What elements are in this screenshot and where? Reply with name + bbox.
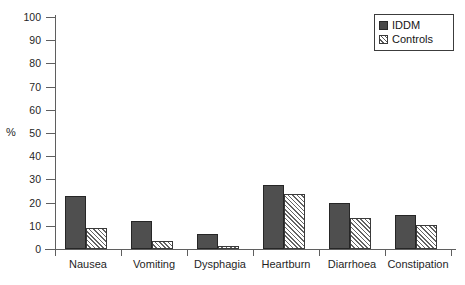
y-axis-tick — [46, 203, 55, 204]
bar-nausea-controls — [86, 228, 107, 249]
legend-item-iddm: IDDM — [379, 18, 448, 32]
bar-heartburn-controls — [284, 194, 305, 249]
bar-diarrhoea-iddm — [329, 203, 350, 249]
x-axis-tick — [385, 249, 386, 256]
y-axis-tick — [46, 133, 55, 134]
y-axis-tick-label: 100 — [11, 12, 41, 23]
x-axis-tick — [319, 249, 320, 256]
y-axis-tick — [46, 87, 55, 88]
y-axis-tick-label: 80 — [11, 58, 41, 69]
bar-dysphagia-controls — [218, 246, 239, 249]
y-axis-tick — [46, 17, 55, 18]
y-axis-tick — [46, 63, 55, 64]
x-axis-line — [45, 249, 456, 250]
y-axis-tick-label: 10 — [11, 221, 41, 232]
x-axis-tick — [451, 249, 452, 256]
bar-heartburn-iddm — [263, 185, 284, 249]
x-axis-tick — [55, 249, 56, 256]
y-axis-tick-label: 30 — [11, 174, 41, 185]
bar-vomiting-controls — [152, 241, 173, 249]
x-axis-tick — [253, 249, 254, 256]
y-axis-tick — [46, 110, 55, 111]
bar-nausea-iddm — [65, 196, 86, 249]
x-axis-tick — [187, 249, 188, 256]
y-axis-tick-label: 20 — [11, 198, 41, 209]
bar-diarrhoea-controls — [350, 218, 371, 249]
y-axis-tick-label: 50 — [11, 128, 41, 139]
legend-item-controls: Controls — [379, 32, 448, 46]
y-axis-tick — [46, 156, 55, 157]
hatched-square-icon — [379, 35, 388, 44]
x-axis-tick — [121, 249, 122, 256]
bar-vomiting-iddm — [131, 221, 152, 249]
y-axis-tick-label: 40 — [11, 151, 41, 162]
y-axis-tick-label: 70 — [11, 82, 41, 93]
x-axis-category-label: Constipation — [377, 258, 459, 271]
bar-dysphagia-iddm — [197, 234, 218, 249]
legend-label-controls: Controls — [392, 33, 433, 45]
y-axis-tick — [46, 40, 55, 41]
y-axis-tick-label: 0 — [11, 244, 41, 255]
y-axis-tick-label: 60 — [11, 105, 41, 116]
chart-legend: IDDM Controls — [374, 14, 454, 51]
legend-label-iddm: IDDM — [392, 19, 420, 31]
bar-constipation-controls — [416, 225, 437, 249]
plot-area — [55, 17, 451, 249]
y-axis-tick-label: 90 — [11, 35, 41, 46]
bar-constipation-iddm — [395, 215, 416, 249]
y-axis-tick — [46, 249, 55, 250]
y-axis-tick — [46, 179, 55, 180]
solid-square-icon — [379, 21, 388, 30]
bar-chart: % 0102030405060708090100 NauseaVomitingD… — [0, 0, 465, 285]
y-axis-tick — [46, 226, 55, 227]
